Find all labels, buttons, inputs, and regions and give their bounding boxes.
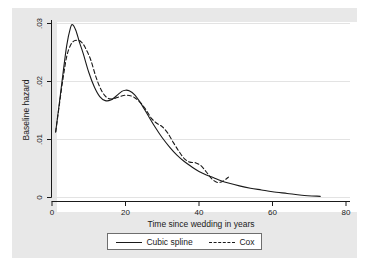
x-axis bbox=[52, 202, 351, 207]
legend: Cubic spline Cox bbox=[107, 233, 262, 250]
x-tick-label-80: 80 bbox=[342, 208, 351, 217]
y-tick-label-003: .03 bbox=[35, 17, 44, 29]
y-tick-label-000: 0 bbox=[35, 195, 44, 200]
series-group bbox=[56, 25, 321, 197]
x-axis-title: Time since wedding in years bbox=[148, 219, 255, 229]
y-axis-title: Baseline hazard bbox=[21, 79, 31, 140]
x-tick-label-20: 20 bbox=[121, 208, 130, 217]
x-tick-label-40: 40 bbox=[195, 208, 204, 217]
y-tick-labels: .03 .02 .01 0 bbox=[35, 17, 44, 199]
gridlines bbox=[52, 24, 350, 198]
y-tick-label-002: .02 bbox=[35, 75, 44, 87]
legend-label-cox: Cox bbox=[239, 238, 254, 247]
x-tick-labels: 0 20 40 60 80 bbox=[50, 208, 351, 217]
dashed-line-icon bbox=[209, 242, 235, 244]
legend-entry-cox: Cox bbox=[209, 238, 254, 247]
series-cubic-spline-line bbox=[56, 25, 321, 197]
legend-entry-cubic-spline: Cubic spline bbox=[116, 238, 192, 247]
x-tick-label-60: 60 bbox=[268, 208, 277, 217]
legend-label-cubic-spline: Cubic spline bbox=[146, 238, 192, 247]
legend-inner: Cubic spline Cox bbox=[108, 234, 263, 251]
chart-screenshot: 0 20 40 60 80 .03 .02 .01 0 Time since w… bbox=[0, 0, 370, 274]
y-axis bbox=[47, 20, 52, 198]
solid-line-icon bbox=[116, 242, 142, 244]
x-tick-label-0: 0 bbox=[50, 208, 55, 217]
y-tick-label-001: .01 bbox=[35, 133, 44, 145]
series-cox-line bbox=[56, 40, 229, 182]
